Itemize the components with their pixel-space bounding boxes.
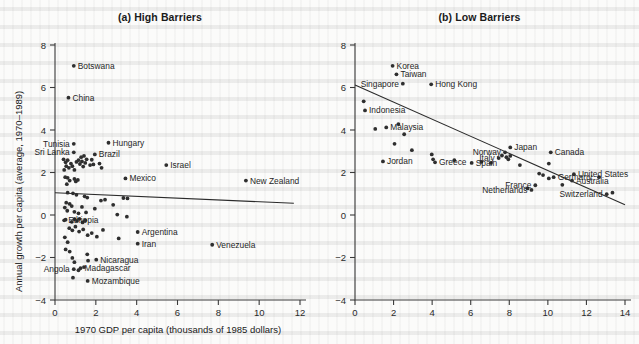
data-point-label: Greece: [439, 157, 467, 167]
x-tick-label: 10: [254, 307, 265, 318]
data-point-label: Jordan: [387, 156, 413, 166]
data-point-labeled: [549, 150, 553, 154]
data-point: [68, 250, 72, 254]
data-point: [506, 157, 510, 161]
x-tick-label: 4: [429, 307, 434, 318]
data-point: [85, 196, 89, 200]
x-tick-label: 2: [93, 307, 98, 318]
data-point-labeled: [530, 188, 534, 192]
data-point: [70, 256, 74, 260]
data-point: [62, 168, 66, 172]
axis-lines: [55, 43, 306, 300]
data-point-labeled: [429, 82, 433, 86]
data-point-label: New Zealand: [250, 176, 300, 186]
data-point: [85, 252, 89, 256]
data-point-labeled: [363, 109, 367, 113]
data-point-label: Mozambique: [92, 276, 140, 286]
x-tick-label: 4: [134, 307, 139, 318]
data-point: [72, 260, 76, 264]
data-point-label: Botswana: [78, 61, 115, 71]
data-point-labeled: [384, 126, 388, 130]
data-point: [547, 162, 551, 166]
y-tick-label: 2: [341, 167, 346, 178]
data-point: [410, 148, 414, 152]
data-point: [91, 163, 95, 167]
y-tick-label: 2: [41, 167, 46, 178]
data-point: [362, 99, 366, 103]
data-point: [77, 230, 81, 234]
data-point: [70, 228, 74, 232]
data-point-labeled: [210, 243, 214, 247]
data-point-label: Malaysia: [390, 122, 423, 132]
y-tick-label: −4: [35, 295, 46, 306]
data-point: [71, 191, 75, 195]
data-point-label: Singapore: [361, 79, 400, 89]
data-point: [77, 158, 81, 162]
data-point: [103, 198, 107, 202]
x-tick-label: 8: [216, 307, 221, 318]
data-point-label: China: [72, 93, 94, 103]
data-point: [67, 226, 71, 230]
data-point: [402, 132, 406, 136]
data-point-labeled: [79, 266, 83, 270]
data-point: [70, 204, 74, 208]
data-point: [611, 191, 615, 195]
panel-a-plot-area: −4−202468024681012BotswanaChinaHungaryTu…: [0, 0, 320, 344]
data-point: [81, 165, 85, 169]
data-point: [74, 225, 78, 229]
figure-canvas: (a) High Barriers Annual growth per capi…: [0, 0, 639, 344]
data-point-labeled: [72, 267, 76, 271]
data-point-labeled: [433, 160, 437, 164]
x-tick-label: 8: [507, 307, 512, 318]
panel-high-barriers: (a) High Barriers Annual growth per capi…: [0, 0, 320, 344]
data-point-labeled: [244, 179, 248, 183]
data-point-labeled: [503, 150, 507, 154]
data-point: [65, 182, 69, 186]
data-point-labeled: [136, 242, 140, 246]
data-point-label: Angola: [44, 264, 70, 274]
y-tick-label: 0: [341, 210, 346, 221]
data-point-labeled: [136, 230, 140, 234]
data-point: [84, 211, 88, 215]
data-point-label: Indonesia: [369, 105, 406, 115]
panel-b-plot-area: −4−20246802468101214KoreaTaiwanSingapore…: [320, 0, 639, 344]
data-point: [100, 166, 104, 170]
regression-trendline: [55, 193, 294, 204]
data-point: [68, 179, 72, 183]
data-point-label: Canada: [555, 147, 585, 157]
data-point: [81, 228, 85, 232]
data-point: [111, 203, 115, 207]
data-point-label: Hong Kong: [435, 79, 477, 89]
y-tick-label: 4: [341, 125, 346, 136]
data-point: [98, 162, 102, 166]
data-point: [71, 276, 75, 280]
data-point-labeled: [605, 192, 609, 196]
x-tick-label: 6: [468, 307, 473, 318]
data-point-labeled: [391, 64, 395, 68]
data-point: [83, 161, 87, 165]
y-tick-label: −2: [335, 252, 346, 263]
data-point: [66, 240, 70, 244]
x-tick-label: 2: [391, 307, 396, 318]
data-point-label: Hungary: [112, 138, 144, 148]
data-point: [93, 207, 97, 211]
data-point: [63, 175, 67, 179]
data-point-labeled: [94, 258, 98, 262]
data-point-labeled: [67, 96, 71, 100]
data-point: [80, 205, 84, 209]
data-point: [560, 183, 564, 187]
data-point: [75, 193, 79, 197]
data-point-label: Taiwan: [400, 69, 426, 79]
y-tick-label: 4: [41, 125, 46, 136]
data-point: [121, 196, 125, 200]
data-point: [95, 235, 99, 239]
data-point-label: Madagascar: [85, 263, 131, 273]
y-tick-label: −2: [35, 252, 46, 263]
data-point-labeled: [552, 175, 556, 179]
x-tick-label: 12: [581, 307, 592, 318]
data-point: [430, 153, 434, 157]
data-point: [86, 233, 90, 237]
data-point: [393, 142, 397, 146]
data-point-label: Australia: [576, 176, 609, 186]
data-point: [90, 231, 94, 235]
